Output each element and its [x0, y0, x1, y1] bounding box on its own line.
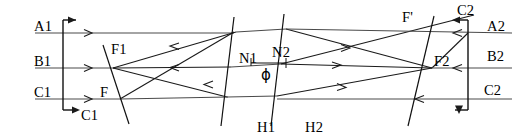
plane-f2: [408, 16, 434, 126]
label-b1: B1: [34, 54, 51, 69]
label-c2-right: C2: [484, 83, 501, 98]
optical-ray-diagram: A1 B1 C1 C1 F1 F N1 N2 ϕ H1 H2 F' F2 C2 …: [0, 0, 526, 139]
plane-h2: [271, 14, 284, 126]
ray-a2-level: [286, 29, 512, 33]
ray-n1-to-n2-lower: [227, 96, 277, 97]
label-b2: B2: [487, 49, 504, 64]
arrow-lower-left: [204, 81, 213, 88]
label-f-left: F: [100, 85, 108, 100]
ray-c1-flat-to-h1: [120, 97, 228, 99]
ray-n2-upper-to-f2: [286, 29, 432, 68]
label-a1: A1: [34, 19, 52, 34]
ray-n2-axis-to-f2: [281, 64, 432, 68]
label-f2: F2: [434, 54, 450, 69]
label-c2-top: C2: [457, 3, 474, 18]
label-h2: H2: [305, 120, 323, 135]
label-h1: H1: [257, 120, 275, 135]
object-left-bottom-arrowhead: [72, 107, 80, 114]
label-c1-left: C1: [34, 85, 51, 100]
ray-f1-up-to-n1: [113, 32, 236, 68]
label-n1: N1: [239, 51, 257, 66]
label-f-prime: F': [402, 10, 413, 25]
arrow-upper-left: [170, 43, 179, 50]
label-c1-bottom: C1: [81, 108, 98, 123]
label-f1: F1: [111, 42, 127, 57]
ray-n2-lower-to-f2: [277, 68, 432, 96]
arrow-a2-left: [453, 30, 462, 37]
label-a2: A2: [487, 19, 505, 34]
ray-n1-to-n2-upper: [236, 29, 286, 32]
label-phi: ϕ: [261, 68, 271, 83]
object-left-top-arrowhead: [68, 17, 76, 24]
label-n2: N2: [272, 45, 290, 60]
